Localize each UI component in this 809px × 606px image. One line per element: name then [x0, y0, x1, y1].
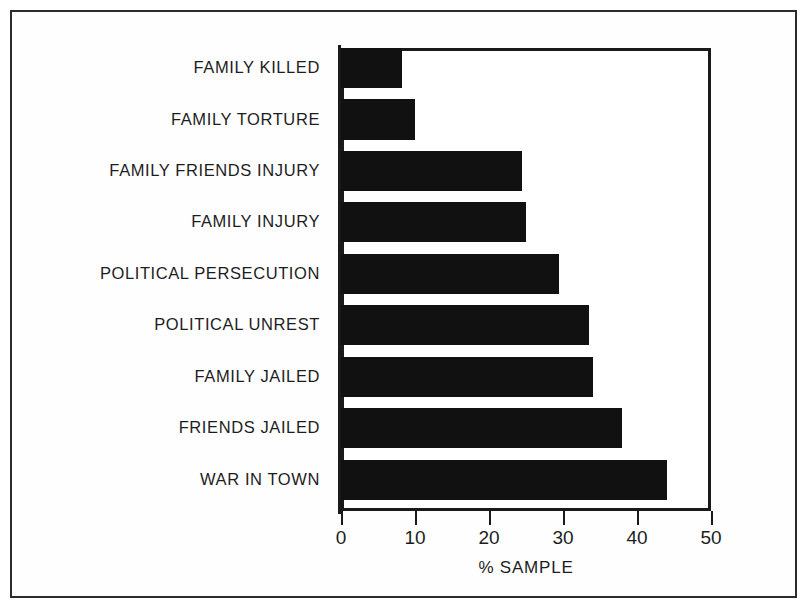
bar [341, 48, 402, 88]
bar-row [341, 202, 711, 253]
category-label: WAR IN TOWN [0, 470, 320, 489]
category-label: FAMILY TORTURE [0, 110, 320, 129]
x-tick-mark [563, 511, 565, 525]
bar-row [341, 99, 711, 150]
bar-row [341, 151, 711, 202]
category-label: POLITICAL UNREST [0, 315, 320, 334]
category-label: FAMILY INJURY [0, 212, 320, 231]
bar-series [341, 48, 711, 511]
bar [341, 460, 667, 500]
bar [341, 408, 622, 448]
bar [341, 99, 415, 139]
x-tick-mark [711, 511, 713, 525]
category-label: FAMILY KILLED [0, 58, 320, 77]
bar-row [341, 408, 711, 459]
x-tick-mark [415, 511, 417, 525]
bar-row [341, 48, 711, 99]
x-tick-label: 50 [691, 527, 731, 549]
x-axis-title: % SAMPLE [341, 558, 711, 578]
x-tick-mark [637, 511, 639, 525]
bar [341, 254, 559, 294]
bar [341, 305, 589, 345]
bar-row [341, 305, 711, 356]
category-label: POLITICAL PERSECUTION [0, 264, 320, 283]
x-tick-label: 0 [321, 527, 361, 549]
category-label: FAMILY FRIENDS INJURY [0, 161, 320, 180]
x-tick-label: 40 [617, 527, 657, 549]
x-tick-label: 30 [543, 527, 583, 549]
bar [341, 357, 593, 397]
bar-row [341, 254, 711, 305]
bar-row [341, 357, 711, 408]
category-label: FAMILY JAILED [0, 367, 320, 386]
x-tick-mark [489, 511, 491, 525]
x-tick-label: 20 [469, 527, 509, 549]
figure-container: FAMILY KILLEDFAMILY TORTUREFAMILY FRIEND… [0, 0, 809, 606]
bar-row [341, 460, 711, 511]
category-label: FRIENDS JAILED [0, 418, 320, 437]
bar [341, 202, 526, 242]
x-tick-mark [341, 511, 343, 525]
bar [341, 151, 522, 191]
x-tick-label: 10 [395, 527, 435, 549]
